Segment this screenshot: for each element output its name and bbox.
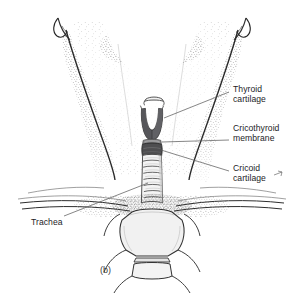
manubrium — [120, 209, 184, 256]
label-trachea: Trachea — [31, 217, 63, 227]
label-thyroid-cartilage: Thyroid cartilage — [233, 84, 266, 104]
figure-caption: (b) — [100, 265, 111, 275]
anatomy-figure: Thyroid cartilage Cricothyroid membrane … — [0, 0, 304, 293]
label-thyroid-cartilage-line2: cartilage — [233, 94, 266, 104]
label-cricoid-cartilage-line1: Cricoid — [233, 163, 260, 173]
label-cricothyroid-membrane-line1: Cricothyroid — [233, 123, 280, 133]
label-cricoid-cartilage-line2: cartilage — [233, 173, 266, 183]
label-cricothyroid-membrane-line2: membrane — [233, 133, 275, 143]
label-trachea-line1: Trachea — [31, 217, 63, 227]
label-cricothyroid-membrane: Cricothyroid membrane — [233, 123, 280, 143]
sternum-body — [132, 258, 172, 279]
label-thyroid-cartilage-line1: Thyroid — [233, 84, 262, 94]
